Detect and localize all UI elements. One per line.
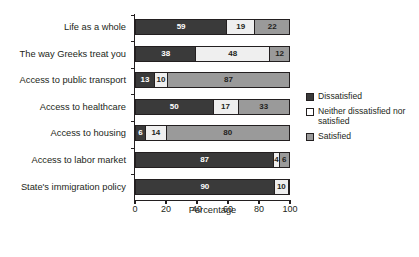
stacked-bar-chart: Life as a wholeThe way Greeks treat youA… [0, 0, 419, 257]
bar-value-label: 87 [200, 156, 209, 164]
bar-value-label: 87 [224, 76, 233, 84]
bar-value-label: 50 [170, 103, 179, 111]
category-label: Access to public transport [0, 67, 132, 94]
bar-value-label: 10 [277, 183, 286, 191]
bar-segment-neu: 10 [274, 180, 289, 194]
category-axis-labels: Life as a wholeThe way Greeks treat youA… [0, 14, 132, 200]
bar-segment-sat: 87 [168, 73, 289, 87]
y-axis-tick [131, 148, 135, 149]
bar-row: 591922 [135, 14, 290, 41]
bar-segment-sat: 22 [255, 20, 289, 34]
stacked-bar: 61480 [135, 125, 290, 141]
x-axis-tick-label: 100 [278, 204, 302, 214]
y-axis-tick [131, 174, 135, 175]
y-axis-tick [131, 41, 135, 42]
legend-item: Satisfied [306, 132, 418, 142]
x-axis-tick-label: 80 [247, 204, 271, 214]
bar-segment-neu: 48 [195, 47, 270, 61]
stacked-bar: 591922 [135, 19, 290, 35]
bar-segment-dis: 13 [136, 73, 154, 87]
bar-segment-sat: 12 [270, 47, 289, 61]
category-label: Access to healthcare [0, 94, 132, 121]
bar-segment-dis: 59 [136, 20, 226, 34]
bar-row: 61480 [135, 120, 290, 147]
legend-label: Neither dissatisfied nor satisfied [318, 107, 418, 126]
category-label: Access to housing [0, 120, 132, 147]
bar-segment-neu: 14 [145, 126, 166, 140]
bar-row: 501733 [135, 94, 290, 121]
bar-segment-sat: 6 [280, 153, 289, 167]
bar-segment-dis: 87 [136, 153, 273, 167]
x-axis-tick-label: 0 [123, 204, 147, 214]
bar-segment-sat: 33 [239, 100, 289, 114]
category-label: Life as a whole [0, 14, 132, 41]
x-axis-tick-label: 40 [185, 204, 209, 214]
bar-value-label: 10 [157, 76, 166, 84]
legend-item: Neither dissatisfied nor satisfied [306, 107, 418, 126]
bar-value-label: 90 [200, 183, 209, 191]
bar-value-label: 22 [268, 23, 277, 31]
legend-swatch-neu [306, 108, 314, 116]
bar-row: 131087 [135, 67, 290, 94]
x-axis-tick-label: 20 [154, 204, 178, 214]
legend-item: Dissatisfied [306, 92, 418, 102]
legend-swatch-sat [306, 133, 314, 141]
y-axis-tick [131, 15, 135, 16]
bar-value-label: 6 [282, 156, 286, 164]
bar-value-label: 14 [151, 129, 160, 137]
chart-legend: DissatisfiedNeither dissatisfied nor sat… [306, 92, 418, 147]
bar-segment-neu: 17 [213, 100, 239, 114]
bar-value-label: 80 [223, 129, 232, 137]
stacked-bar: 9010 [135, 179, 290, 195]
bar-segment-dis: 50 [136, 100, 213, 114]
bar-segment-sat: 80 [167, 126, 289, 140]
bar-row: 9010 [135, 174, 290, 201]
stacked-bar: 131087 [135, 72, 290, 88]
bar-value-label: 6 [138, 129, 142, 137]
stacked-bar: 501733 [135, 99, 290, 115]
legend-label: Dissatisfied [318, 92, 362, 102]
bar-value-label: 19 [236, 23, 245, 31]
x-axis-tick-label: 60 [216, 204, 240, 214]
bar-value-label: 4 [274, 156, 278, 164]
bar-row: 384812 [135, 41, 290, 68]
bar-value-label: 33 [259, 103, 268, 111]
category-label: The way Greeks treat you [0, 41, 132, 68]
bar-segment-neu: 10 [154, 73, 168, 87]
stacked-bar: 384812 [135, 46, 290, 62]
bar-value-label: 38 [161, 50, 170, 58]
legend-label: Satisfied [318, 132, 351, 142]
bar-value-label: 17 [221, 103, 230, 111]
legend-swatch-dis [306, 93, 314, 101]
bar-row: 8746 [135, 147, 290, 174]
bar-value-label: 12 [275, 50, 284, 58]
y-axis-tick [131, 94, 135, 95]
category-label: State's immigration policy [0, 174, 132, 201]
plot-area: 5919223848121310875017336148087469010 [135, 14, 290, 200]
bar-value-label: 48 [228, 50, 237, 58]
category-label: Access to labor market [0, 147, 132, 174]
bar-value-label: 13 [141, 76, 150, 84]
bar-segment-dis: 38 [136, 47, 195, 61]
bar-segment-neu: 19 [226, 20, 255, 34]
bar-segment-dis: 6 [136, 126, 145, 140]
bar-segment-dis: 90 [136, 180, 274, 194]
stacked-bar: 8746 [135, 152, 290, 168]
y-axis-tick [131, 68, 135, 69]
bar-value-label: 59 [177, 23, 186, 31]
y-axis-tick [131, 121, 135, 122]
